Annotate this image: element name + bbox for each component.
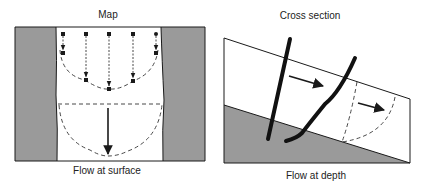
flow-arrow-upper — [289, 76, 323, 86]
glacier-surface — [224, 38, 410, 99]
cross-section-panel — [224, 38, 410, 163]
stake-markers — [61, 32, 158, 91]
flow-arrow-lower — [358, 103, 384, 110]
map-panel — [15, 27, 205, 161]
diagram-canvas — [0, 0, 422, 184]
right-rock-wall — [161, 27, 205, 161]
left-rock-wall — [15, 27, 57, 161]
depth-velocity-profile — [342, 82, 357, 142]
surface-flow-profile — [59, 105, 162, 156]
